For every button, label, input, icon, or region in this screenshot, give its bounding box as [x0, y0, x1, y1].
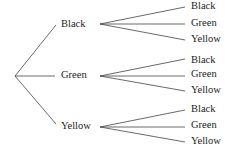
- node-l2-green-yellow: Yellow: [191, 84, 221, 96]
- node-l2-green-black: Black: [191, 54, 216, 66]
- tree-diagram: Black Green Yellow Black Green Yellow Bl…: [0, 0, 225, 152]
- node-l2-yellow-black: Black: [191, 103, 216, 115]
- node-l2-black-black: Black: [191, 0, 216, 12]
- node-l2-black-yellow: Yellow: [191, 33, 221, 45]
- node-l2-black-green: Green: [191, 17, 217, 29]
- node-l1-black: Black: [61, 18, 86, 30]
- node-l1-green: Green: [61, 69, 87, 81]
- node-l2-green-green: Green: [191, 68, 217, 80]
- node-l2-yellow-green: Green: [191, 119, 217, 131]
- node-l1-yellow: Yellow: [61, 120, 91, 132]
- node-l2-yellow-yellow: Yellow: [191, 135, 221, 147]
